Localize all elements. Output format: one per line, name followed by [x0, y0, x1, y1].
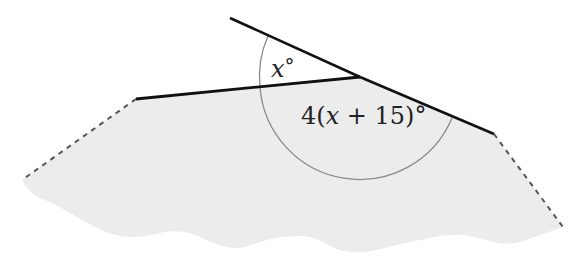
small-angle-variable: x — [271, 55, 285, 83]
large-angle-variable: x — [326, 102, 340, 130]
large-angle-suffix: + 15)° — [339, 102, 426, 130]
small-angle-degree: ° — [285, 54, 295, 78]
shaded-region — [22, 77, 563, 252]
small-angle-arc — [259, 36, 268, 87]
angle-diagram: x° 4(x + 15)° — [0, 0, 570, 257]
top-ray — [230, 18, 360, 77]
large-angle-prefix: 4( — [301, 102, 326, 130]
small-angle-label: x° — [271, 54, 295, 83]
large-angle-label: 4(x + 15)° — [301, 102, 426, 130]
